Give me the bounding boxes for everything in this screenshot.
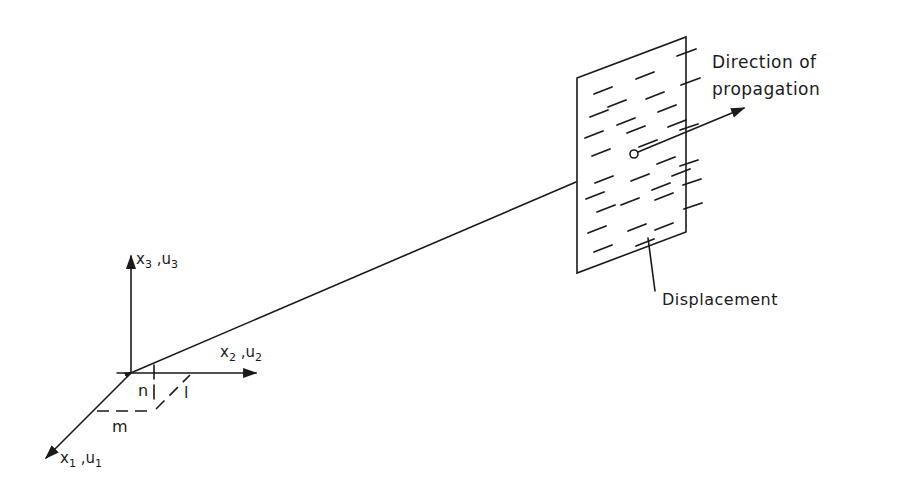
x2-axis-label: x2 ,u2 xyxy=(220,343,262,364)
cosine-l-label: l xyxy=(184,383,188,402)
wave-diagram: x3 ,u3 x2 ,u2 x1 ,u1 n l m Direction of … xyxy=(0,0,907,493)
wavefront-plane xyxy=(577,37,702,273)
x1-axis-label: x1 ,u1 xyxy=(60,449,102,470)
plane-center-point xyxy=(630,150,638,158)
propagation-line xyxy=(133,182,576,372)
direction-label-line1: Direction of xyxy=(712,52,817,72)
x1-axis xyxy=(46,373,131,458)
direction-label-line2: propagation xyxy=(712,79,820,99)
cosine-m-label: m xyxy=(112,417,128,436)
cosine-n-label: n xyxy=(138,381,148,400)
x3-axis-label: x3 ,u3 xyxy=(136,250,178,271)
displacement-leader xyxy=(648,238,655,291)
displacement-label: Displacement xyxy=(662,290,778,309)
propagation-arrow xyxy=(630,108,744,158)
